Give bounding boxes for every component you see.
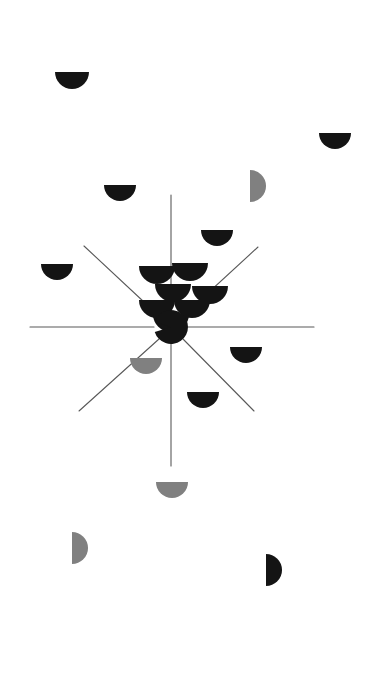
figure-canvas <box>0 0 369 673</box>
figure-svg <box>0 0 369 673</box>
